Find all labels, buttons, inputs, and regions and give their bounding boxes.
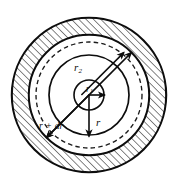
label-r-plus-dr: r + dr: [39, 122, 64, 132]
label-r2: r2: [74, 62, 82, 75]
annulus-diagram: r2 r1 r r + dr: [0, 0, 180, 193]
label-r: r: [96, 117, 100, 128]
label-r1: r1: [86, 85, 93, 95]
annulus-figure-svg: [0, 0, 180, 193]
